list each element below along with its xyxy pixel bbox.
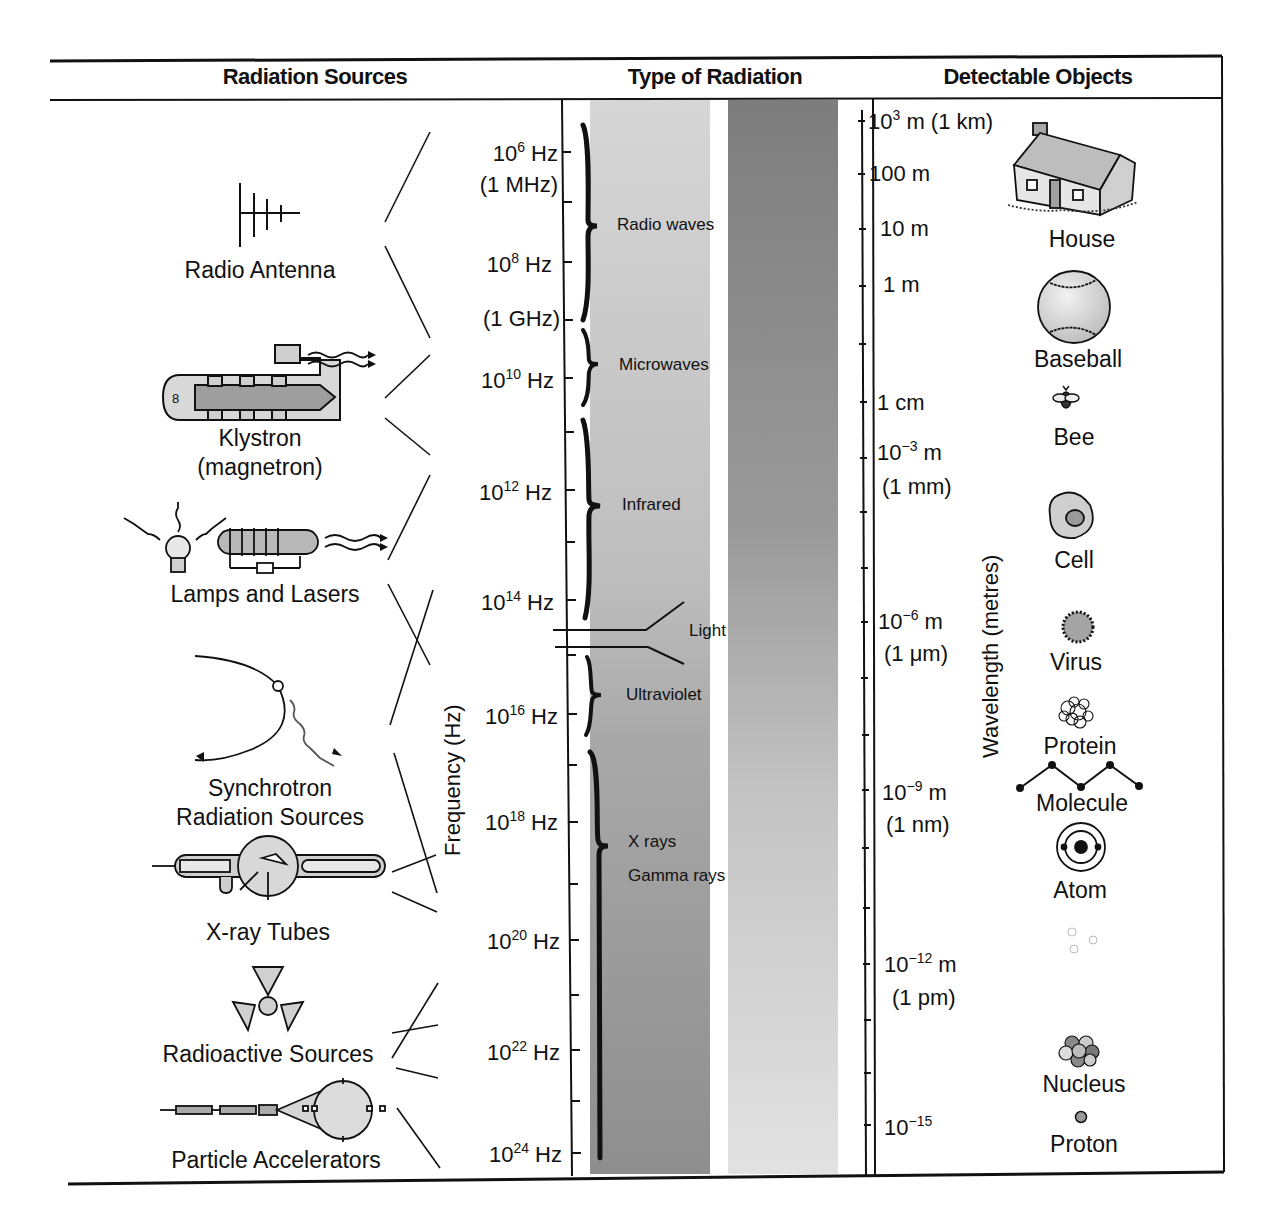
freq-tick-label: 1012 Hz bbox=[479, 478, 552, 506]
wavelength-tick-label: 10−12 m bbox=[884, 950, 957, 978]
virus-icon bbox=[1063, 612, 1093, 642]
freq-tick-label: 1010 Hz bbox=[481, 366, 554, 394]
radiation-label-microwaves: Microwaves bbox=[619, 355, 709, 375]
source-label-xray-tubes: X-ray Tubes bbox=[138, 918, 398, 947]
freq-tick-note: (1 MHz) bbox=[480, 172, 558, 198]
source-label-radioactive: Radioactive Sources bbox=[138, 1040, 398, 1069]
wavelength-axis bbox=[858, 110, 871, 1176]
source-label-particle-accelerators: Particle Accelerators bbox=[146, 1146, 406, 1175]
wavelength-tick-note: (1 nm) bbox=[886, 812, 950, 838]
source-label-synchrotron: Synchrotron Radiation Sources bbox=[140, 774, 400, 832]
wavelength-tick-note: (1 pm) bbox=[892, 985, 956, 1011]
radiation-label-ultraviolet: Ultraviolet bbox=[626, 685, 702, 705]
frequency-axis-title: Frequency (Hz) bbox=[440, 704, 466, 856]
wavelength-tick-label: 10−9 m bbox=[882, 778, 947, 806]
header-radiation-sources: Radiation Sources bbox=[70, 58, 560, 96]
wavelength-axis-title: Wavelength (metres) bbox=[978, 555, 1004, 758]
freq-tick-label: 1018 Hz bbox=[485, 808, 558, 836]
source-label-line1: Synchrotron bbox=[140, 774, 400, 803]
object-label-house: House bbox=[1012, 226, 1152, 253]
wavelength-tick-label: 10−15 bbox=[884, 1113, 932, 1141]
particle-accelerator-icon bbox=[160, 1078, 385, 1142]
xray-tube-icon bbox=[152, 836, 385, 900]
object-label-atom: Atom bbox=[1010, 877, 1150, 904]
radiation-label-light: Light bbox=[689, 621, 726, 641]
object-label-proton: Proton bbox=[1014, 1131, 1154, 1158]
klystron-icon: 8 bbox=[163, 345, 376, 420]
lamp-laser-icon bbox=[124, 502, 388, 573]
object-label-nucleus: Nucleus bbox=[1014, 1071, 1154, 1098]
source-label-lamps-lasers: Lamps and Lasers bbox=[135, 580, 395, 609]
proton-icon bbox=[1076, 1112, 1087, 1123]
wavelength-tick-label: 10−3 m bbox=[877, 438, 942, 466]
synchrotron-icon bbox=[195, 656, 342, 766]
radio-antenna-icon bbox=[240, 183, 300, 247]
source-label-line1: Klystron bbox=[130, 424, 390, 453]
bee-icon bbox=[1053, 386, 1079, 408]
object-label-molecule: Molecule bbox=[1012, 790, 1152, 817]
freq-tick-label: 1016 Hz bbox=[485, 702, 558, 730]
freq-tick-label: 1020 Hz bbox=[487, 927, 560, 955]
baseball-icon bbox=[1038, 271, 1110, 343]
house-icon bbox=[1008, 123, 1138, 215]
object-label-protein: Protein bbox=[1010, 733, 1150, 760]
atom-icon bbox=[1057, 823, 1105, 871]
svg-text:8: 8 bbox=[172, 391, 179, 406]
source-label-line2: Radiation Sources bbox=[140, 803, 400, 832]
wavelength-tick-label: 10 m bbox=[880, 216, 929, 242]
freq-tick-note: (1 GHz) bbox=[483, 306, 560, 332]
freq-tick-label: 1022 Hz bbox=[487, 1038, 560, 1066]
radioactive-icon bbox=[233, 967, 303, 1030]
frequency-axis bbox=[562, 100, 581, 1176]
band-dark bbox=[728, 100, 838, 1174]
faint-particles-icon bbox=[1068, 928, 1097, 953]
radiation-label-radio-waves: Radio waves bbox=[617, 215, 714, 235]
freq-tick-label: 1024 Hz bbox=[489, 1140, 562, 1168]
freq-tick-label: 106 Hz bbox=[493, 139, 558, 167]
object-label-virus: Virus bbox=[1006, 649, 1146, 676]
source-label-radio-antenna: Radio Antenna bbox=[130, 256, 390, 285]
wavelength-tick-label: 10−6 m bbox=[878, 607, 943, 635]
wavelength-tick-label: 1 m bbox=[883, 272, 920, 298]
wavelength-tick-note: (1 μm) bbox=[884, 641, 948, 667]
wavelength-tick-note: (1 mm) bbox=[882, 474, 952, 500]
cell-icon bbox=[1050, 493, 1093, 539]
freq-tick-label: 1014 Hz bbox=[481, 588, 554, 616]
object-label-cell: Cell bbox=[1004, 547, 1144, 574]
wavelength-tick-label: 100 m bbox=[869, 161, 930, 187]
protein-icon bbox=[1059, 697, 1093, 728]
freq-tick-label: 108 Hz bbox=[487, 250, 552, 278]
molecule-icon bbox=[1017, 762, 1142, 791]
source-connector-lines bbox=[385, 132, 440, 1168]
radiation-label-gamma-rays: Gamma rays bbox=[628, 866, 725, 886]
header-type-of-radiation: Type of Radiation bbox=[560, 58, 870, 96]
source-label-line2: (magnetron) bbox=[130, 453, 390, 482]
electromagnetic-spectrum-diagram: 8 bbox=[0, 0, 1274, 1226]
object-label-baseball: Baseball bbox=[1008, 346, 1148, 373]
radiation-label-x-rays: X rays bbox=[628, 832, 676, 852]
wavelength-tick-label: 1 cm bbox=[877, 390, 925, 416]
nucleus-icon bbox=[1059, 1036, 1099, 1067]
header-detectable-objects: Detectable Objects bbox=[876, 58, 1200, 96]
object-label-bee: Bee bbox=[1004, 424, 1144, 451]
source-label-klystron: Klystron (magnetron) bbox=[130, 424, 390, 482]
radiation-label-infrared: Infrared bbox=[622, 495, 681, 515]
wavelength-tick-label: 103 m (1 km) bbox=[868, 107, 993, 135]
